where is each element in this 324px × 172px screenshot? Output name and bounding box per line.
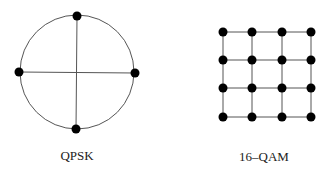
qam-symbol-point [307,28,316,37]
qpsk-symbol-point [15,68,24,77]
qam-symbol-point [248,28,257,37]
qam-symbol-point [248,84,257,93]
qam-symbol-point [307,56,316,65]
qam-symbol-point [307,113,316,122]
qam16-constellation [219,28,316,122]
qam-symbol-point [278,113,287,122]
constellation-diagram: QPSK 16–QAM [0,0,324,172]
qpsk-horizontal-axis [19,72,135,73]
qpsk-symbol-point [131,69,140,78]
qam-symbol-point [248,56,257,65]
qpsk-symbol-point [73,12,82,21]
qam-symbol-point [219,56,228,65]
qam-symbol-point [248,113,257,122]
qam-symbol-point [219,113,228,122]
qam-symbol-point [219,84,228,93]
qam-symbol-point [307,84,316,93]
qam16-label: 16–QAM [239,149,289,164]
qpsk-constellation [15,12,140,134]
qpsk-symbol-point [72,125,81,134]
qam-symbol-point [219,28,228,37]
qam-symbol-point [278,84,287,93]
qpsk-label: QPSK [60,148,94,163]
qam-symbol-point [278,56,287,65]
qam-symbol-point [278,28,287,37]
